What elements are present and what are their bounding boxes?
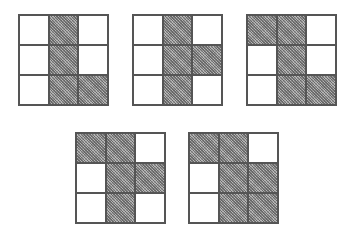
shaded-cell-r0-c1	[49, 15, 79, 45]
shaded-cell-r1-c2	[192, 45, 222, 75]
empty-cell-r0-c2	[306, 15, 336, 45]
empty-cell-r1-c0	[189, 163, 219, 193]
shaded-cell-r1-c1	[106, 163, 136, 193]
grid-4	[75, 132, 166, 224]
shaded-cell-r0-c0	[247, 15, 277, 45]
grid-1	[18, 14, 109, 106]
shaded-cell-r2-c2	[248, 193, 278, 223]
shaded-cell-r1-c1	[163, 45, 193, 75]
empty-cell-r0-c0	[133, 15, 163, 45]
shaded-cell-r0-c0	[76, 133, 106, 163]
shaded-cell-r1-c1	[277, 45, 307, 75]
shaded-cell-r0-c1	[219, 133, 249, 163]
empty-cell-r1-c2	[306, 45, 336, 75]
grid-2	[132, 14, 223, 106]
empty-cell-r2-c0	[189, 193, 219, 223]
shaded-cell-r0-c0	[189, 133, 219, 163]
shaded-cell-r0-c1	[106, 133, 136, 163]
shaded-cell-r2-c1	[219, 193, 249, 223]
empty-cell-r1-c0	[133, 45, 163, 75]
empty-cell-r1-c0	[19, 45, 49, 75]
empty-cell-r1-c2	[78, 45, 108, 75]
grid-5	[188, 132, 279, 224]
shaded-cell-r0-c1	[163, 15, 193, 45]
empty-cell-r2-c2	[135, 193, 165, 223]
empty-cell-r0-c2	[135, 133, 165, 163]
empty-cell-r2-c2	[192, 75, 222, 105]
empty-cell-r1-c0	[247, 45, 277, 75]
shaded-cell-r1-c1	[219, 163, 249, 193]
empty-cell-r0-c2	[78, 15, 108, 45]
empty-cell-r2-c0	[19, 75, 49, 105]
shaded-cell-r1-c1	[49, 45, 79, 75]
shaded-cell-r2-c2	[306, 75, 336, 105]
shaded-cell-r1-c2	[248, 163, 278, 193]
empty-cell-r0-c2	[248, 133, 278, 163]
shaded-cell-r2-c1	[106, 193, 136, 223]
shaded-cell-r2-c2	[78, 75, 108, 105]
shaded-cell-r2-c1	[163, 75, 193, 105]
empty-cell-r0-c2	[192, 15, 222, 45]
shaded-cell-r2-c1	[277, 75, 307, 105]
empty-cell-r2-c0	[76, 193, 106, 223]
empty-cell-r1-c0	[76, 163, 106, 193]
empty-cell-r2-c0	[247, 75, 277, 105]
empty-cell-r2-c0	[133, 75, 163, 105]
empty-cell-r0-c0	[19, 15, 49, 45]
shaded-cell-r1-c2	[135, 163, 165, 193]
shaded-cell-r0-c1	[277, 15, 307, 45]
grid-3	[246, 14, 337, 106]
shaded-cell-r2-c1	[49, 75, 79, 105]
